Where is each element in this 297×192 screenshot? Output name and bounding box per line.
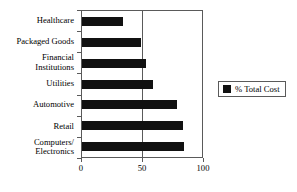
legend-label-total-cost: % Total Cost	[235, 84, 280, 94]
bar-utilities	[82, 80, 153, 89]
bar-computers-electronics	[82, 142, 184, 151]
bar-packaged-goods	[82, 38, 141, 47]
bar-row	[82, 115, 202, 136]
plot-area	[81, 10, 203, 158]
legend-swatch-total-cost	[223, 85, 231, 93]
bar-retail	[82, 121, 183, 130]
x-tick-100	[203, 158, 204, 162]
legend: % Total Cost	[218, 81, 286, 97]
bar-row	[82, 136, 202, 157]
y-axis-label-retail: Retail	[0, 116, 78, 137]
x-axis-tick-marks	[81, 158, 203, 162]
y-axis-label-computers-electronics: Computers/ Electronics	[0, 137, 78, 158]
bar-row	[82, 94, 202, 115]
bar-financial-institutions	[82, 59, 146, 68]
x-tick-0	[81, 158, 82, 162]
y-axis-label-packaged-goods: Packaged Goods	[0, 31, 78, 52]
x-tick-label-100: 100	[197, 163, 210, 174]
y-axis-label-utilities: Utilities	[0, 73, 78, 94]
bar-row	[82, 32, 202, 53]
y-axis-label-automotive: Automotive	[0, 95, 78, 116]
y-axis-category-labels: Healthcare Packaged Goods Financial Inst…	[0, 10, 78, 158]
y-axis-label-healthcare: Healthcare	[0, 10, 78, 31]
bar-chart-figure: Healthcare Packaged Goods Financial Inst…	[0, 0, 297, 192]
x-tick-label-0: 0	[79, 163, 83, 174]
bar-automotive	[82, 100, 177, 109]
bar-row	[82, 53, 202, 74]
bar-row	[82, 11, 202, 32]
bar-row	[82, 74, 202, 95]
x-tick-label-50: 50	[138, 163, 147, 174]
bar-healthcare	[82, 17, 123, 26]
x-tick-50	[142, 158, 143, 162]
y-axis-label-financial-institutions: Financial Institutions	[0, 52, 78, 73]
bar-series-total-cost	[82, 11, 202, 157]
x-axis-tick-labels: 0 50 100	[81, 163, 203, 175]
